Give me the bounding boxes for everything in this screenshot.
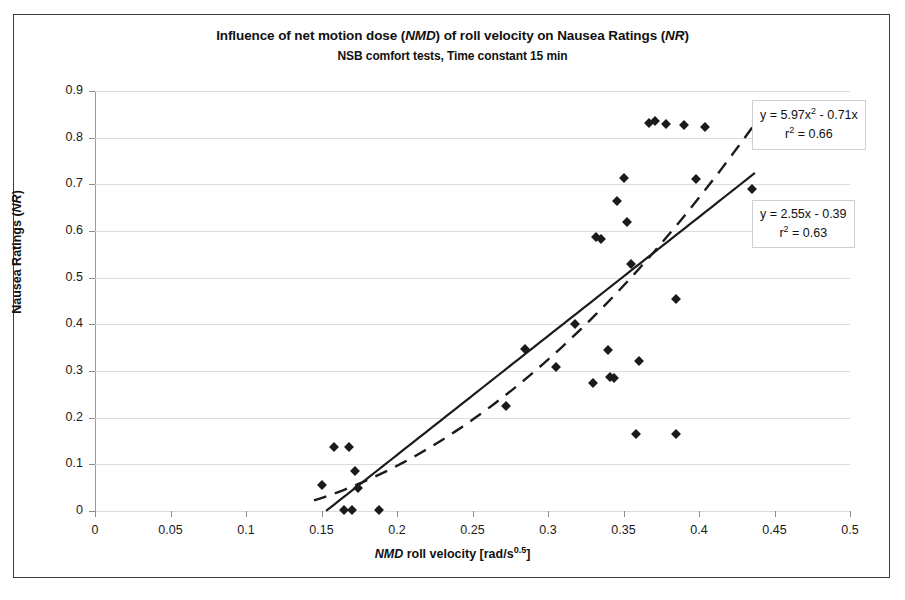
y-tick-label: 0.6 <box>43 223 83 237</box>
x-tick-mark <box>473 511 474 517</box>
y-tick-label: 0.2 <box>43 410 83 424</box>
quadratic-equation-pre: y = 5.97x <box>760 108 811 122</box>
linear-r2: r2 = 0.63 <box>760 223 847 242</box>
x-tick-label: 0.2 <box>367 523 427 537</box>
y-tick-label: 0 <box>43 503 83 517</box>
x-tick-label: 0.05 <box>141 523 201 537</box>
x-tick-label: 0.25 <box>443 523 503 537</box>
linear-r2-post: = 0.63 <box>789 226 828 240</box>
y-axis-title-part-c: ) <box>10 190 24 194</box>
y-axis-title: Nausea Ratings (NR) <box>10 42 24 462</box>
quadratic-equation: y = 5.97x2 - 0.71x <box>760 105 858 124</box>
x-tick-mark <box>397 511 398 517</box>
x-tick-mark <box>548 511 549 517</box>
chart-title-part-a: Influence of net motion dose ( <box>216 28 405 43</box>
x-tick-label: 0.3 <box>518 523 578 537</box>
linear-equation-pre: y = 2.55x - 0.39 <box>760 207 847 221</box>
chart-title: Influence of net motion dose (NMD) of ro… <box>0 28 905 43</box>
x-tick-label: 0.35 <box>594 523 654 537</box>
x-tick-mark <box>775 511 776 517</box>
y-tick-label: 0.5 <box>43 270 83 284</box>
chart-title-nr: NR <box>665 28 684 43</box>
y-tick-label: 0.1 <box>43 456 83 470</box>
x-tick-mark <box>850 511 851 517</box>
y-axis-title-nr: NR <box>10 194 24 212</box>
linear-equation: y = 2.55x - 0.39 <box>760 205 847 223</box>
y-tick-label: 0.7 <box>43 176 83 190</box>
linear-fit <box>326 173 755 511</box>
linear-fit-annotation: y = 2.55x - 0.39 r2 = 0.63 <box>752 200 855 248</box>
x-tick-mark <box>171 511 172 517</box>
y-axis-title-part-a: Nausea Ratings ( <box>10 212 24 313</box>
chart-figure: Influence of net motion dose (NMD) of ro… <box>0 0 905 600</box>
x-tick-label: 0.4 <box>669 523 729 537</box>
x-axis-title-rest: roll velocity [rad/s <box>403 547 513 561</box>
quadratic-r2-post: = 0.66 <box>794 127 833 141</box>
x-tick-mark <box>95 511 96 517</box>
x-tick-mark <box>699 511 700 517</box>
quadratic-fit-annotation: y = 5.97x2 - 0.71x r2 = 0.66 <box>752 100 866 150</box>
x-axis-title-close: ] <box>526 547 530 561</box>
y-tick-label: 0.8 <box>43 130 83 144</box>
quadratic-fit <box>314 117 759 500</box>
x-tick-mark <box>624 511 625 517</box>
plot-area <box>95 91 850 511</box>
x-axis-title-nmd: NMD <box>375 547 403 561</box>
x-tick-label: 0.45 <box>745 523 805 537</box>
quadratic-r2: r2 = 0.66 <box>760 124 858 143</box>
y-tick-label: 0.4 <box>43 316 83 330</box>
x-tick-label: 0.15 <box>292 523 352 537</box>
x-tick-label: 0 <box>65 523 125 537</box>
trendline-layer <box>95 91 850 511</box>
y-tick-label: 0.9 <box>43 83 83 97</box>
x-tick-label: 0.1 <box>216 523 276 537</box>
chart-title-part-c: ) <box>684 28 688 43</box>
chart-subtitle: NSB comfort tests, Time constant 15 min <box>0 49 905 63</box>
x-axis-title-exponent: 0.5 <box>514 545 527 555</box>
y-tick-label: 0.3 <box>43 363 83 377</box>
x-tick-label: 0.5 <box>820 523 880 537</box>
chart-title-part-b: ) of roll velocity on Nausea Ratings ( <box>436 28 666 43</box>
chart-title-nmd: NMD <box>405 28 435 43</box>
x-tick-mark <box>246 511 247 517</box>
quadratic-equation-post: - 0.71x <box>816 108 858 122</box>
x-axis-title: NMD roll velocity [rad/s0.5] <box>0 545 905 561</box>
x-tick-mark <box>322 511 323 517</box>
